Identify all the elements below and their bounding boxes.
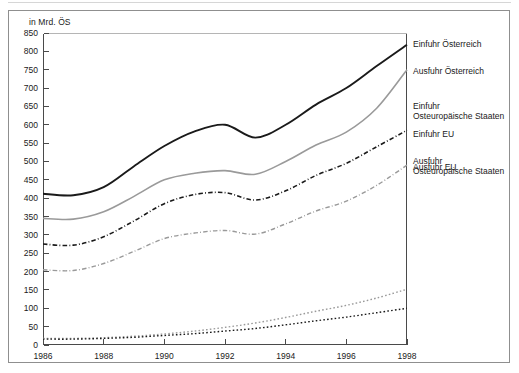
y-axis-tick-label: 700: [10, 83, 38, 93]
series-label-line: Ausfuhr Österreich: [413, 66, 484, 76]
y-axis-tick-label: 300: [10, 230, 38, 240]
series-label-line: Osteuropäische Staaten: [413, 167, 504, 177]
y-axis-tick-label: 350: [10, 212, 38, 222]
y-axis-tick-label: 0: [10, 340, 38, 350]
series-label-line: Ausfuhr: [413, 156, 442, 166]
series-line: [43, 308, 407, 339]
y-axis-tick-label: 450: [10, 175, 38, 185]
y-axis-tick-label: 550: [10, 138, 38, 148]
y-axis-tick-label: 500: [10, 156, 38, 166]
top-rule: [8, 2, 511, 3]
x-axis-tick-label: 1986: [34, 351, 53, 361]
y-axis-tick-label: 50: [10, 322, 38, 332]
series-line: [43, 70, 407, 220]
y-axis-tick-label: 650: [10, 101, 38, 111]
plot-area: [43, 33, 407, 345]
x-axis-tick-label: 1994: [276, 351, 295, 361]
series-line: [43, 289, 407, 338]
series-label: EinfuhrOsteuropäische Staaten: [413, 102, 504, 121]
x-axis-tick-label: 1998: [398, 351, 417, 361]
y-axis-tick-label: 100: [10, 303, 38, 313]
x-axis-tick-label: 1990: [155, 351, 174, 361]
y-axis-tick-label: 800: [10, 46, 38, 56]
y-axis-tick-label: 250: [10, 248, 38, 258]
y-axis-tick-label: 750: [10, 65, 38, 75]
y-axis-tick-label: 150: [10, 285, 38, 295]
y-axis-tick-label: 600: [10, 120, 38, 130]
x-axis-tick-label: 1992: [216, 351, 235, 361]
series-line: [43, 130, 407, 245]
series-label: Ausfuhr Österreich: [413, 67, 484, 77]
series-line: [43, 165, 407, 271]
y-axis-unit-label: in Mrd. ÖS: [29, 17, 71, 27]
series-label-line: Einfuhr: [413, 101, 440, 111]
series-label: AusfuhrOsteuropäische Staaten: [413, 157, 504, 176]
series-label: Einfuhr EU: [413, 130, 454, 140]
y-axis-tick-label: 850: [10, 28, 38, 38]
x-axis-tick-label: 1996: [337, 351, 356, 361]
series-label-line: Einfuhr EU: [413, 129, 454, 139]
y-axis-tick-label: 200: [10, 267, 38, 277]
series-label-line: Einfuhr Österreich: [413, 39, 482, 49]
series-label: Einfuhr Österreich: [413, 40, 482, 50]
series-label-line: Osteuropäische Staaten: [413, 112, 504, 122]
series-line: [43, 45, 407, 196]
x-axis-tick-label: 1988: [94, 351, 113, 361]
y-axis-tick-label: 400: [10, 193, 38, 203]
chart-figure: in Mrd. ÖS 05010015020025030035040045050…: [0, 0, 519, 373]
chart-svg: [43, 33, 408, 346]
